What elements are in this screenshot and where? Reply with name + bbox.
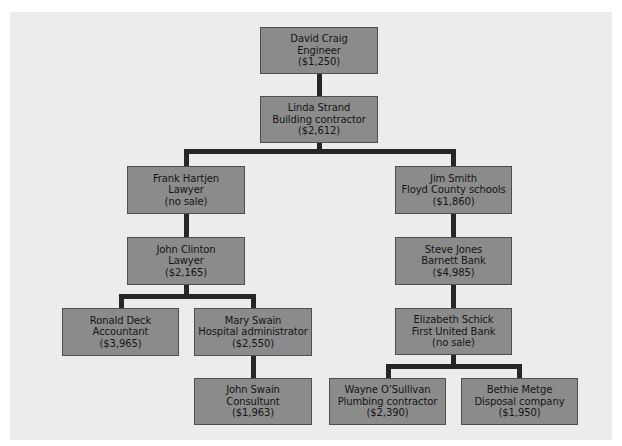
- connector-to-bethie: [517, 364, 522, 378]
- connector-steve-elizabeth: [451, 285, 456, 308]
- node-sale: ($1,963): [232, 407, 274, 419]
- connector-mary-johnswain: [251, 356, 256, 378]
- node-role: Barnett Bank: [421, 255, 485, 267]
- connector-david-linda: [317, 74, 322, 96]
- node-wayne-osullivan: Wayne O’Sullivan Plumbing contractor ($2…: [329, 378, 446, 425]
- node-sale: ($4,985): [433, 267, 475, 279]
- node-sale: ($2,390): [367, 407, 409, 419]
- node-role: Engineer: [297, 45, 341, 57]
- node-john-clinton: John Clinton Lawyer ($2,165): [127, 237, 245, 285]
- node-sale: (no sale): [165, 196, 208, 208]
- node-role: Consultunt: [226, 396, 279, 408]
- node-sale: (no sale): [432, 337, 475, 349]
- node-role: Floyd County schools: [401, 184, 505, 196]
- node-name: Ronald Deck: [90, 315, 151, 327]
- node-sale: ($1,950): [499, 407, 541, 419]
- node-role: Building contractor: [272, 114, 366, 126]
- node-sale: ($1,250): [298, 56, 340, 68]
- node-role: Lawyer: [168, 184, 203, 196]
- connector-branch-level4-left: [119, 294, 256, 299]
- node-name: Bethie Metge: [487, 384, 552, 396]
- node-jim-smith: Jim Smith Floyd County schools ($1,860): [395, 166, 512, 214]
- node-steve-jones: Steve Jones Barnett Bank ($4,985): [395, 237, 512, 285]
- node-role: Accountant: [93, 326, 149, 338]
- node-role: First United Bank: [412, 326, 496, 338]
- node-role: Lawyer: [168, 255, 203, 267]
- node-ronald-deck: Ronald Deck Accountant ($3,965): [62, 308, 179, 356]
- node-name: Mary Swain: [225, 315, 282, 327]
- node-name: John Clinton: [157, 244, 216, 256]
- connector-to-frank: [184, 149, 189, 166]
- node-role: Plumbing contractor: [338, 396, 438, 408]
- node-elizabeth-schick: Elizabeth Schick First United Bank (no s…: [395, 308, 512, 355]
- connector-branch-level2: [184, 149, 456, 154]
- node-sale: ($2,550): [232, 338, 274, 350]
- node-sale: ($2,165): [165, 267, 207, 279]
- connector-jim-steve: [451, 214, 456, 237]
- node-role: Hospital administrator: [198, 326, 307, 338]
- node-mary-swain: Mary Swain Hospital administrator ($2,55…: [194, 308, 312, 356]
- node-sale: ($3,965): [100, 338, 142, 350]
- node-role: Disposal company: [475, 396, 565, 408]
- node-sale: ($2,612): [298, 125, 340, 137]
- node-david-craig: David Craig Engineer ($1,250): [260, 27, 378, 74]
- node-name: Elizabeth Schick: [414, 314, 494, 326]
- connector-to-mary: [251, 294, 256, 308]
- node-name: David Craig: [290, 33, 347, 45]
- node-name: Frank Hartjen: [153, 173, 219, 185]
- connector-to-ronald: [119, 294, 124, 308]
- node-name: John Swain: [226, 384, 280, 396]
- node-name: Jim Smith: [430, 173, 477, 185]
- node-john-swain: John Swain Consultunt ($1,963): [194, 378, 312, 425]
- node-bethie-metge: Bethie Metge Disposal company ($1,950): [461, 378, 578, 425]
- node-name: Wayne O’Sullivan: [345, 384, 431, 396]
- connector-branch-level5-right: [386, 364, 522, 369]
- node-name: Linda Strand: [288, 102, 350, 114]
- connector-to-wayne: [386, 364, 391, 378]
- node-linda-strand: Linda Strand Building contractor ($2,612…: [260, 96, 378, 143]
- node-frank-hartjen: Frank Hartjen Lawyer (no sale): [127, 166, 245, 214]
- connector-frank-johnclinton: [184, 214, 189, 237]
- node-sale: ($1,860): [433, 196, 475, 208]
- node-name: Steve Jones: [425, 244, 482, 256]
- connector-to-jim: [451, 149, 456, 166]
